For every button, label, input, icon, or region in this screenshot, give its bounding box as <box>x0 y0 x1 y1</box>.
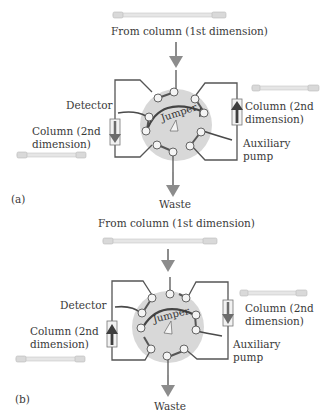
column-tube-icon <box>103 238 217 244</box>
from-column-label: From column (1st dimension) <box>111 25 268 38</box>
inlet-arrow-icon <box>169 42 183 68</box>
panel-label: (b) <box>15 393 30 406</box>
aux-pump-label: Auxiliary pump <box>243 137 291 163</box>
inlet-arrow-icon <box>161 249 175 272</box>
left-column-label: Column (2nd dimension) <box>30 325 99 351</box>
left-column-label: Column (2nd dimension) <box>32 125 101 151</box>
waste-arrow-icon <box>166 172 180 197</box>
panel-label: (a) <box>11 193 25 206</box>
aux-pump-label: Auxiliary pump <box>233 338 281 364</box>
left-column-icon <box>109 119 121 145</box>
from-column-label: From column (1st dimension) <box>98 217 255 230</box>
column-tube-icon <box>16 356 85 362</box>
column-tube-icon <box>252 85 319 91</box>
column-tube-icon <box>17 152 86 158</box>
right-column-label: Column (2nd dimension) <box>245 302 314 328</box>
detector-label: Detector <box>66 99 113 112</box>
right-column-icon <box>231 99 243 125</box>
column-tube-icon <box>113 12 226 18</box>
panel-a: Jumper From column (1st dimension) Detec… <box>0 0 330 207</box>
column-tube-icon <box>240 290 307 296</box>
panel-b: Jumper From column (1st dimension) Detec… <box>0 207 330 414</box>
waste-label: Waste <box>154 400 186 413</box>
right-column-label: Column (2nd dimension) <box>245 100 314 126</box>
detector-label: Detector <box>60 299 107 312</box>
right-column-icon <box>222 300 234 326</box>
left-column-icon <box>106 321 118 347</box>
waste-arrow-icon <box>161 375 175 397</box>
